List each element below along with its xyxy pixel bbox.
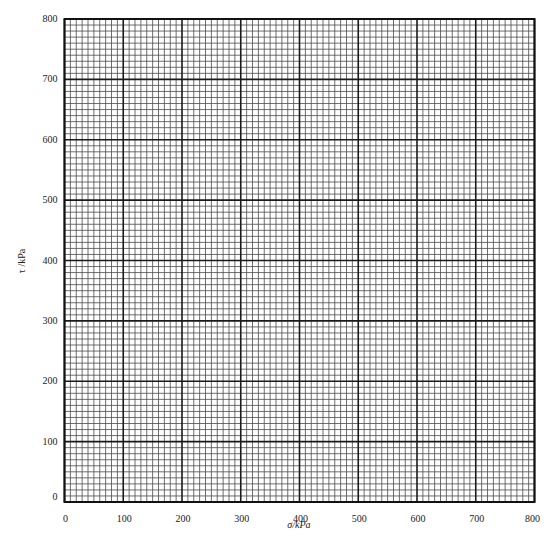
x-tick-label: 100 (117, 513, 132, 524)
y-tick-label: 800 (43, 13, 58, 24)
y-tick-label: 600 (43, 134, 58, 145)
x-tick-label: 700 (469, 513, 484, 524)
background (0, 0, 558, 559)
x-tick-label: 200 (176, 513, 191, 524)
x-tick-label: 600 (411, 513, 426, 524)
x-tick-label: 0 (63, 513, 68, 524)
y-axis-label: τ /kPa (16, 248, 27, 273)
x-axis-label: σ/kPa (287, 519, 310, 530)
y-tick-label: 0 (53, 491, 58, 502)
y-tick-label: 400 (43, 255, 58, 266)
y-tick-label: 700 (43, 73, 58, 84)
x-tick-label: 300 (234, 513, 249, 524)
y-tick-label: 100 (43, 436, 58, 447)
x-tick-label: 500 (352, 513, 367, 524)
x-tick-label: 800 (525, 513, 540, 524)
y-tick-label: 500 (43, 194, 58, 205)
y-tick-label: 200 (43, 375, 58, 386)
shear-stress-graph-paper: 0100200300400500600700800 01002003004005… (0, 0, 558, 559)
y-tick-label: 300 (43, 315, 58, 326)
